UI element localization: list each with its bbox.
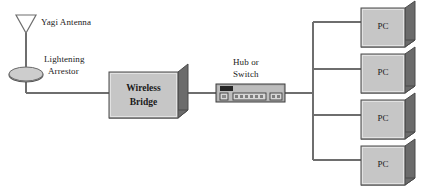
network-diagram: Yagi Antenna Lightening Arrestor Wireles…: [0, 0, 425, 196]
yagi-antenna-label: Yagi Antenna: [41, 17, 91, 28]
connection-lines: [26, 22, 361, 160]
hub-switch-label-line2: Switch: [233, 69, 259, 80]
pc-label-3: PC: [361, 113, 405, 123]
pc-label-4: PC: [361, 159, 405, 169]
lightening-arrestor-icon: [9, 67, 43, 82]
lightening-arrestor-label-line1: Lightening: [44, 54, 85, 65]
pc-label-2: PC: [361, 67, 405, 77]
hub-switch-label-line1: Hub or: [233, 57, 259, 68]
wireless-bridge-label-line1: Wireless: [109, 82, 178, 94]
wireless-bridge-label-line2: Bridge: [109, 96, 178, 108]
pc-label-1: PC: [361, 21, 405, 31]
hub-switch-icon: [216, 84, 285, 102]
lightening-arrestor-label-line2: Arrestor: [48, 66, 79, 77]
yagi-antenna-icon: [16, 15, 36, 33]
